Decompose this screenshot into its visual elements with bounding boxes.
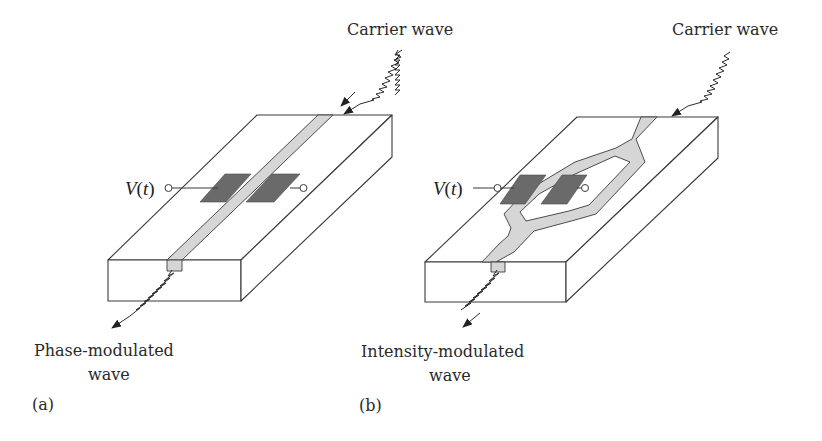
panel-a-substrate — [108, 115, 392, 301]
voltage-symbol: V — [433, 178, 445, 199]
panel-b-voltage-label: V(t) — [433, 179, 463, 198]
panel-a-input-wave — [341, 50, 400, 106]
panel-b-output-arrow — [463, 313, 480, 327]
panel-a-tag: (a) — [32, 397, 54, 413]
panel-a-input-arrow — [344, 104, 360, 114]
panel-a-input-zigzag — [360, 50, 402, 104]
panel-a-output-arrow — [112, 316, 130, 328]
panel-b-input-arrow — [672, 106, 688, 116]
panel-a-output-label-line2: wave — [88, 367, 130, 383]
panel-a-output-label-line1: Phase-modulated — [34, 343, 174, 359]
close-paren: ) — [456, 178, 462, 199]
panel-b-input-label: Carrier wave — [672, 22, 778, 38]
close-paren: ) — [148, 178, 154, 199]
panel-b-output-label-line1: Intensity-modulated — [361, 344, 524, 360]
panel-a-input-label: Carrier wave — [347, 22, 453, 38]
panel-b-output-label-line2: wave — [429, 368, 471, 384]
panel-a-voltage-label: V(t) — [125, 179, 155, 198]
voltage-symbol: V — [125, 178, 137, 199]
panel-b-substrate — [425, 117, 718, 302]
panel-b-tag: (b) — [359, 398, 382, 414]
panel-b-input-zigzag — [688, 52, 730, 106]
